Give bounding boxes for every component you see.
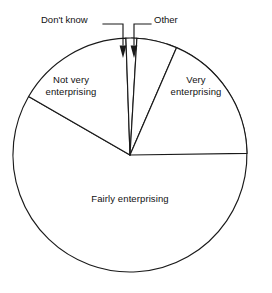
pie-chart-svg [0,0,272,293]
pie-chart: Very enterprising Not very enterprising … [0,0,272,293]
slice-label-very-enterprising: Very enterprising [160,74,232,97]
callout-label-dont-know: Don't know [41,14,88,25]
slice-label-not-very-enterprising: Not very enterprising [32,74,110,97]
slice-label-fairly-enterprising: Fairly enterprising [60,193,200,205]
callout-label-other: Other [154,14,178,25]
